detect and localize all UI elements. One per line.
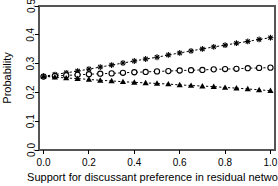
- data-point-filled-triangle: [199, 83, 205, 88]
- data-point-open-circle: [234, 66, 239, 71]
- x-tick-label: 1.0: [264, 157, 278, 168]
- x-tick-label: 0.8: [218, 157, 232, 168]
- x-axis-ticks: 0.00.20.40.60.81.0: [37, 150, 278, 168]
- data-point-filled-triangle: [120, 79, 126, 84]
- data-point-open-circle: [154, 69, 159, 74]
- data-point-open-circle: [177, 68, 182, 73]
- data-point-open-circle: [132, 70, 137, 75]
- data-point-star: [256, 37, 262, 43]
- data-point-open-circle: [120, 70, 125, 75]
- data-point-star: [86, 66, 92, 72]
- data-point-star: [234, 40, 240, 46]
- data-point-open-circle: [86, 72, 91, 77]
- data-point-open-circle: [245, 66, 250, 71]
- y-tick-label: 0.2: [26, 85, 37, 99]
- series-middle-series: [41, 65, 273, 79]
- data-point-filled-triangle: [256, 87, 262, 92]
- data-point-open-circle: [268, 65, 273, 70]
- x-tick-label: 0.2: [82, 157, 96, 168]
- data-point-star: [154, 54, 160, 60]
- x-tick-label: 0.4: [127, 157, 141, 168]
- chart-figure: 0.00.20.40.60.81.0 0.00.10.20.30.40.5 Su…: [0, 0, 278, 186]
- data-point-open-circle: [211, 67, 216, 72]
- data-point-star: [268, 35, 274, 41]
- data-point-star: [211, 44, 217, 50]
- y-axis-ticks: 0.00.10.20.30.40.5: [26, 0, 40, 157]
- data-point-open-circle: [257, 65, 262, 70]
- data-point-open-circle: [166, 68, 171, 73]
- x-tick-label: 0.6: [173, 157, 187, 168]
- data-point-star: [188, 48, 194, 54]
- data-point-open-circle: [143, 69, 148, 74]
- y-tick-label: 0.0: [26, 143, 37, 157]
- data-point-star: [131, 58, 137, 64]
- data-point-open-circle: [109, 71, 114, 76]
- data-point-open-circle: [222, 66, 227, 71]
- y-tick-label: 0.3: [26, 56, 37, 70]
- y-tick-label: 0.1: [26, 114, 37, 128]
- data-point-filled-triangle: [143, 80, 149, 85]
- data-point-open-circle: [200, 67, 205, 72]
- data-point-open-circle: [98, 71, 103, 76]
- y-tick-label: 0.4: [26, 27, 37, 41]
- probability-scatter-plot: 0.00.20.40.60.81.0 0.00.10.20.30.40.5 Su…: [0, 0, 278, 186]
- x-tick-label: 0.0: [37, 157, 51, 168]
- data-point-filled-triangle: [86, 76, 92, 81]
- y-tick-label: 0.5: [26, 0, 37, 13]
- data-point-open-circle: [188, 68, 193, 73]
- data-point-filled-triangle: [165, 81, 171, 86]
- data-point-star: [165, 52, 171, 58]
- data-point-star: [199, 46, 205, 52]
- data-point-star: [120, 60, 126, 66]
- data-point-star: [143, 56, 149, 62]
- data-point-star: [222, 42, 228, 48]
- data-point-star: [245, 39, 251, 45]
- data-point-star: [97, 64, 103, 70]
- data-point-filled-triangle: [222, 84, 228, 89]
- data-point-star: [177, 50, 183, 56]
- data-point-star: [109, 62, 115, 68]
- y-axis-title: Probability: [1, 52, 13, 104]
- data-series-group: [40, 35, 273, 93]
- x-axis-title: Support for discussant preference in res…: [27, 171, 278, 183]
